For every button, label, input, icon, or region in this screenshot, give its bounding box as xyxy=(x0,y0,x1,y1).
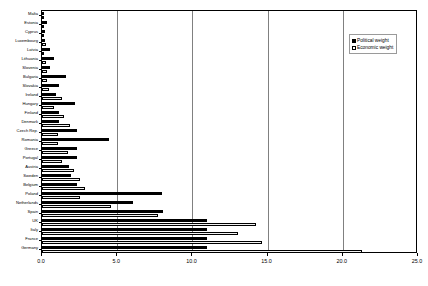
x-tick-label-25.0: 25.0 xyxy=(403,258,428,264)
bar-economic-finland xyxy=(42,115,64,118)
bar-economic-romania xyxy=(42,142,58,145)
y-tick xyxy=(39,42,41,43)
bar-economic-greece xyxy=(42,151,68,154)
y-tick xyxy=(39,105,41,106)
bar-economic-estonia xyxy=(42,25,44,28)
y-tick xyxy=(39,33,41,34)
y-tick xyxy=(39,159,41,160)
y-tick xyxy=(39,177,41,178)
y-tick xyxy=(39,141,41,142)
bar-economic-slovakia xyxy=(42,88,49,91)
y-label-bulgaria: Bulgaria xyxy=(23,75,38,79)
bar-economic-poland xyxy=(42,196,80,199)
bar-economic-slovenia xyxy=(42,70,47,73)
legend-label-economic: Economic weight xyxy=(357,45,393,50)
filled-square-icon xyxy=(352,39,356,43)
y-label-lithuania: Lithuania xyxy=(21,57,38,61)
x-tick-label-0.0: 0.0 xyxy=(27,258,55,264)
bar-economic-denmark xyxy=(42,124,70,127)
y-label-uk: UK xyxy=(32,219,38,223)
y-label-latvia: Latvia xyxy=(27,48,38,52)
x-tick-label-10.0: 10.0 xyxy=(177,258,205,264)
x-tick-label-5.0: 5.0 xyxy=(102,258,130,264)
y-tick xyxy=(39,51,41,52)
bar-economic-lithuania xyxy=(42,61,46,64)
x-tick-label-20.0: 20.0 xyxy=(328,258,356,264)
bar-economic-uk xyxy=(42,223,256,226)
y-tick xyxy=(39,60,41,61)
hollow-square-icon xyxy=(352,46,356,50)
y-tick xyxy=(39,168,41,169)
y-label-germany: Germany xyxy=(21,246,38,250)
bar-economic-germany xyxy=(42,250,362,253)
bar-economic-czech-rep xyxy=(42,133,58,136)
legend-item-economic: Economic weight xyxy=(352,44,393,51)
bar-economic-ireland xyxy=(42,97,62,100)
x-tick-label-15.0: 15.0 xyxy=(253,258,281,264)
y-tick xyxy=(39,78,41,79)
y-label-sweden: Sweden xyxy=(23,174,38,178)
y-tick xyxy=(39,240,41,241)
y-tick xyxy=(39,249,41,250)
y-label-ireland: Ireland xyxy=(25,93,38,97)
y-tick xyxy=(39,24,41,25)
bar-economic-luxembourg xyxy=(42,43,46,46)
y-tick xyxy=(39,132,41,133)
bar-economic-malta xyxy=(42,16,44,19)
y-label-czech-rep: Czech Rep. xyxy=(17,129,38,133)
x-tick-5.0 xyxy=(116,253,117,256)
y-label-slovenia: Slovenia xyxy=(22,66,38,70)
y-label-denmark: Denmark xyxy=(21,120,38,124)
gridline-10.0 xyxy=(192,11,193,252)
bar-economic-belgium xyxy=(42,187,85,190)
legend[interactable]: Political weight Economic weight xyxy=(349,34,397,54)
legend-label-political: Political weight xyxy=(357,38,389,43)
bar-chart: MaltaEstoniaCyprusLuxembourgLatviaLithua… xyxy=(0,0,428,286)
bar-economic-italy xyxy=(42,232,238,235)
x-tick-25.0 xyxy=(417,253,418,256)
y-label-luxembourg: Luxembourg xyxy=(15,39,38,43)
y-tick xyxy=(39,96,41,97)
y-label-slovakia: Slovakia xyxy=(23,84,38,88)
x-tick-20.0 xyxy=(342,253,343,256)
gridline-20.0 xyxy=(343,11,344,252)
x-tick-0.0 xyxy=(41,253,42,256)
y-tick xyxy=(39,69,41,70)
y-label-malta: Malta xyxy=(28,12,38,16)
bar-economic-sweden xyxy=(42,178,80,181)
bar-economic-cyprus xyxy=(42,34,44,37)
legend-item-political: Political weight xyxy=(352,37,393,44)
bar-economic-hungary xyxy=(42,106,54,109)
bar-economic-bulgaria xyxy=(42,79,47,82)
y-label-belgium: Belgium xyxy=(23,183,38,187)
y-tick xyxy=(39,213,41,214)
bar-economic-latvia xyxy=(42,52,44,55)
y-tick xyxy=(39,123,41,124)
y-tick xyxy=(39,87,41,88)
bar-economic-portugal xyxy=(42,160,62,163)
x-tick-15.0 xyxy=(267,253,268,256)
y-label-poland: Poland xyxy=(25,192,38,196)
y-tick xyxy=(39,15,41,16)
y-label-estonia: Estonia xyxy=(24,21,38,25)
y-tick xyxy=(39,114,41,115)
y-tick xyxy=(39,186,41,187)
y-tick xyxy=(39,222,41,223)
x-tick-10.0 xyxy=(191,253,192,256)
y-label-cyprus: Cyprus xyxy=(25,30,38,34)
bar-economic-france xyxy=(42,241,262,244)
y-label-hungary: Hungary xyxy=(23,102,38,106)
bar-economic-austria xyxy=(42,169,74,172)
y-label-austria: Austria xyxy=(25,165,38,169)
y-label-netherlands: Netherlands xyxy=(16,201,38,205)
y-label-romania: Romania xyxy=(22,138,38,142)
bar-economic-spain xyxy=(42,214,158,217)
y-tick xyxy=(39,231,41,232)
y-label-italy: Italy xyxy=(30,228,38,232)
y-label-greece: Greece xyxy=(25,147,38,151)
y-tick xyxy=(39,150,41,151)
y-label-portugal: Portugal xyxy=(23,156,38,160)
y-label-france: France xyxy=(25,237,38,241)
bar-economic-netherlands xyxy=(42,205,111,208)
y-label-finland: Finland xyxy=(25,111,38,115)
